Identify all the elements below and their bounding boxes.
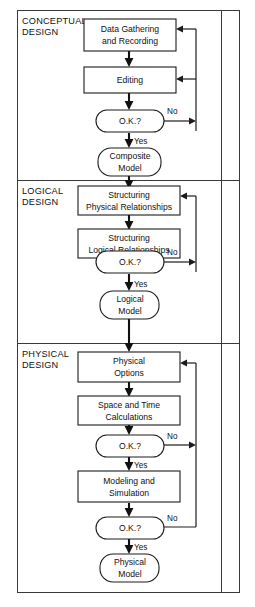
edge-label-yes-4: Yes — [134, 543, 147, 552]
arrow-ok1-to-composite — [125, 139, 134, 148]
node-data-gathering-line2: and Recording — [102, 36, 158, 46]
node-logical-model-line2: Model — [118, 306, 141, 316]
flowchart-svg: CONCEPTUAL DESIGN LOGICAL DESIGN PHYSICA… — [0, 0, 255, 607]
edge-label-no-1: No — [167, 107, 178, 116]
node-ok-4-label: O.K.? — [119, 523, 141, 533]
node-physical-options-line1: Physical — [113, 356, 145, 366]
node-physical-options[interactable]: Physical Options — [78, 352, 180, 382]
node-editing[interactable]: Editing — [84, 67, 176, 93]
node-physical-options-line2: Options — [114, 368, 144, 378]
node-ok-4[interactable]: O.K.? — [96, 517, 164, 539]
node-composite-model-line2: Model — [118, 163, 141, 173]
node-space-time-line2: Calculations — [106, 412, 153, 422]
section-label-logical-line2: DESIGN — [22, 197, 58, 207]
node-composite-model-line1: Composite — [109, 151, 150, 161]
node-structuring-physical[interactable]: Structuring Physical Relationships — [78, 186, 180, 215]
arrow-ok3-to-modeling — [125, 462, 134, 471]
node-modeling-simulation-line1: Modeling and — [103, 476, 155, 486]
section-label-conceptual: CONCEPTUAL DESIGN — [22, 16, 87, 37]
no-arrow-physical-1 — [189, 442, 196, 449]
arrow-gathering-to-editing — [125, 58, 134, 67]
no-arrow-logical — [189, 259, 196, 266]
node-composite-model[interactable]: Composite Model — [98, 148, 161, 176]
node-space-time[interactable]: Space and Time Calculations — [78, 396, 180, 425]
feedback-arrow-physical-options — [180, 360, 187, 367]
feedback-arrow-editing — [176, 76, 183, 83]
node-structuring-physical-line1: Structuring — [108, 190, 150, 200]
node-data-gathering-line1: Data Gathering — [101, 24, 160, 34]
arrow-editing-to-ok1 — [125, 101, 134, 110]
node-ok-1[interactable]: O.K.? — [96, 110, 164, 132]
node-data-gathering[interactable]: Data Gathering and Recording — [84, 19, 176, 51]
node-space-time-line1: Space and Time — [98, 400, 160, 410]
section-label-conceptual-line1: CONCEPTUAL — [22, 16, 87, 26]
node-physical-model-line1: Physical — [114, 557, 146, 567]
node-modeling-simulation[interactable]: Modeling and Simulation — [78, 471, 180, 502]
edge-label-no-3: No — [167, 432, 178, 441]
node-physical-model[interactable]: Physical Model — [100, 554, 159, 582]
node-logical-model[interactable]: Logical Model — [100, 291, 159, 319]
node-structuring-logical-line1: Structuring — [108, 233, 150, 243]
node-structuring-physical-line2: Physical Relationships — [86, 202, 172, 212]
edge-label-no-2: No — [167, 248, 178, 257]
edge-label-yes-1: Yes — [134, 137, 147, 146]
arrow-ok4-to-physical-model — [125, 545, 134, 554]
arrow-ok2-to-logical-model — [125, 282, 134, 291]
edge-label-yes-2: Yes — [134, 280, 147, 289]
node-ok-1-label: O.K.? — [119, 116, 141, 126]
flowchart-canvas: CONCEPTUAL DESIGN LOGICAL DESIGN PHYSICA… — [0, 0, 255, 607]
no-arrow-conceptual — [189, 118, 196, 125]
node-physical-model-line2: Model — [118, 569, 141, 579]
node-logical-model-line1: Logical — [116, 294, 143, 304]
arrow-logical-model-to-physical-options — [125, 343, 134, 352]
node-modeling-simulation-line2: Simulation — [109, 488, 149, 498]
node-editing-line1: Editing — [117, 75, 143, 85]
node-ok-2-label: O.K.? — [119, 257, 141, 267]
feedback-arrow-data-gathering — [176, 26, 183, 33]
section-label-physical-line1: PHYSICAL — [22, 349, 69, 359]
section-label-logical-line1: LOGICAL — [22, 186, 63, 196]
feedback-arrow-structuring-physical — [180, 193, 187, 200]
arrow-spacetime-to-ok3 — [125, 426, 134, 435]
arrow-modeling-to-ok4 — [125, 508, 134, 517]
edge-label-yes-3: Yes — [134, 461, 147, 470]
node-ok-3[interactable]: O.K.? — [96, 435, 164, 457]
node-ok-2[interactable]: O.K.? — [96, 251, 164, 273]
section-label-physical: PHYSICAL DESIGN — [22, 349, 69, 370]
node-ok-3-label: O.K.? — [119, 441, 141, 451]
section-label-logical: LOGICAL DESIGN — [22, 186, 63, 207]
edge-label-no-4: No — [167, 514, 178, 523]
section-label-conceptual-line2: DESIGN — [22, 27, 58, 37]
section-label-physical-line2: DESIGN — [22, 360, 58, 370]
